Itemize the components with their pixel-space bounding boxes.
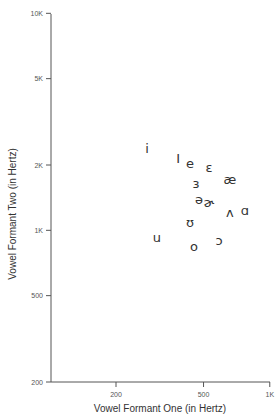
vowel-point-label: i (145, 141, 149, 156)
vowel-formant-chart: 2005001K2K5K10K 2005001K Vowel Formant T… (0, 0, 278, 418)
y-axis-title: Vowel Formant Two (in Hertz) (7, 148, 18, 280)
vowel-point-label: æ (224, 172, 237, 187)
vowel-point-label: ʌ (226, 205, 234, 220)
x-tick-label: 1K (265, 391, 274, 398)
x-axis: 2005001K (51, 382, 274, 398)
y-tick-label: 5K (34, 75, 43, 82)
vowel-point-label: ə (195, 192, 203, 207)
y-tick-label: 2K (34, 162, 43, 169)
y-tick-label: 10K (31, 10, 44, 17)
vowel-points: iIeɛæɜəɚʌɑʊuoɔ (145, 141, 249, 255)
vowel-point-label: u (153, 230, 161, 245)
vowel-point-label: ɚ (204, 195, 215, 210)
x-tick-label: 500 (198, 391, 210, 398)
vowel-point-label: ɜ (193, 176, 200, 191)
y-tick-label: 500 (31, 292, 43, 299)
x-tick-label: 200 (110, 391, 122, 398)
x-axis-title: Vowel Formant One (in Hertz) (94, 403, 226, 414)
vowel-point-label: ɛ (205, 160, 212, 175)
vowel-point-label: ɔ (215, 233, 222, 248)
y-tick-label: 200 (31, 379, 43, 386)
vowel-point-label: ɑ (241, 203, 249, 218)
vowel-point-label: e (186, 156, 194, 171)
vowel-point-label: o (190, 239, 198, 254)
vowel-point-label: I (176, 151, 180, 166)
y-axis: 2005001K2K5K10K (31, 10, 51, 386)
vowel-point-label: ʊ (186, 215, 194, 230)
y-tick-label: 1K (34, 227, 43, 234)
